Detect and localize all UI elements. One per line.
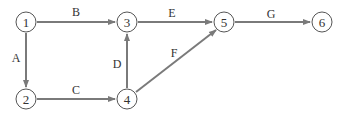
node-4: 4 [117, 89, 137, 109]
node-1: 1 [16, 12, 36, 32]
node-label: 2 [23, 92, 30, 107]
edge-label-C: C [72, 83, 80, 97]
node-label: 5 [221, 15, 228, 30]
node-label: 6 [319, 15, 326, 30]
edge-label-F: F [171, 46, 178, 60]
edge-label-G: G [267, 7, 276, 21]
node-5: 5 [214, 12, 234, 32]
edge-label-B: B [72, 5, 80, 19]
edge-F [136, 30, 216, 92]
network-diagram: B A C D E F G 1 2 3 4 5 6 [0, 0, 347, 117]
node-6: 6 [312, 12, 332, 32]
node-label: 3 [124, 15, 131, 30]
edge-label-E: E [168, 6, 175, 20]
edge-label-A: A [12, 51, 21, 65]
node-label: 1 [23, 15, 30, 30]
node-2: 2 [16, 89, 36, 109]
edge-label-D: D [113, 57, 122, 71]
node-label: 4 [124, 92, 131, 107]
node-3: 3 [117, 12, 137, 32]
